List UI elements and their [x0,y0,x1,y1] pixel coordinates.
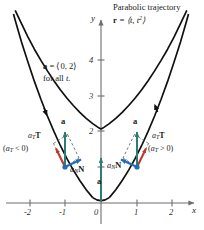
tangential-label-left: aTT [28,132,41,140]
acceleration-statement: a = ⟨0, 2⟩ [43,62,77,71]
position-function-label: r = ⟨t, t2⟩ [113,15,145,24]
x-tick-minus-2: -2 [24,208,31,217]
point-dot-left [62,164,67,169]
x-tick-2: 2 [169,208,173,217]
x-tick-1: 1 [134,208,138,217]
acceleration-value: = ⟨0, 2⟩ [47,61,77,71]
acceleration-label-origin: a [97,177,101,186]
point-dot-right [134,164,139,169]
figure-canvas: Parabolic trajectory r = ⟨t, t2⟩ a = ⟨0,… [0,0,204,230]
tangential-label-right: aTT [152,132,165,140]
y-tick-4: 4 [89,56,93,65]
x-tick-minus-1: -1 [59,208,66,217]
position-vector-value: = ⟨t, t2⟩ [117,15,145,25]
y-tick-2: 2 [89,127,93,136]
tangential-sign-left: (aT < 0) [3,145,28,153]
tangential-sign-right: (aT > 0) [148,145,173,153]
x-tick-origin: 0 [94,208,98,217]
curve-direction-arrow-right [155,106,157,112]
acceleration-label-right: a [133,117,137,126]
x-axis-label: x [192,206,196,215]
normal-label-left: aNN [70,166,84,174]
figure-title: Parabolic trajectory [113,3,181,12]
y-axis-label: y [91,14,95,23]
curve-direction-arrow-left [44,108,46,114]
acceleration-label-left: a [61,117,65,126]
for-all-t-note: for all t. [43,74,70,83]
normal-label-right: aNN [107,162,121,170]
y-tick-3: 3 [89,92,93,101]
diagram-svg [0,0,204,230]
